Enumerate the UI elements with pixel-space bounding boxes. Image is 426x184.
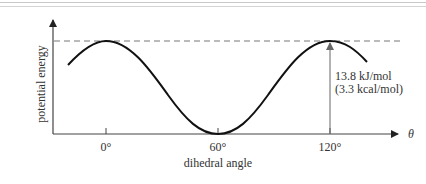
barrier-label-kcal: (3.3 kcal/mol) xyxy=(335,82,403,96)
energy-diagram-svg: potential energy θ 0° 60° 120° dihedral … xyxy=(0,0,426,184)
x-axis-label: dihedral angle xyxy=(184,156,252,170)
tick-label-0: 0° xyxy=(101,140,112,154)
potential-energy-curve xyxy=(68,41,367,134)
tick-label-120: 120° xyxy=(319,140,342,154)
tick-label-60: 60° xyxy=(210,140,227,154)
y-axis-label: potential energy xyxy=(34,45,48,122)
barrier-label-kj: 13.8 kJ/mol xyxy=(335,69,392,83)
x-axis-symbol: θ xyxy=(408,127,414,141)
diagram-frame: potential energy θ 0° 60° 120° dihedral … xyxy=(0,0,426,184)
